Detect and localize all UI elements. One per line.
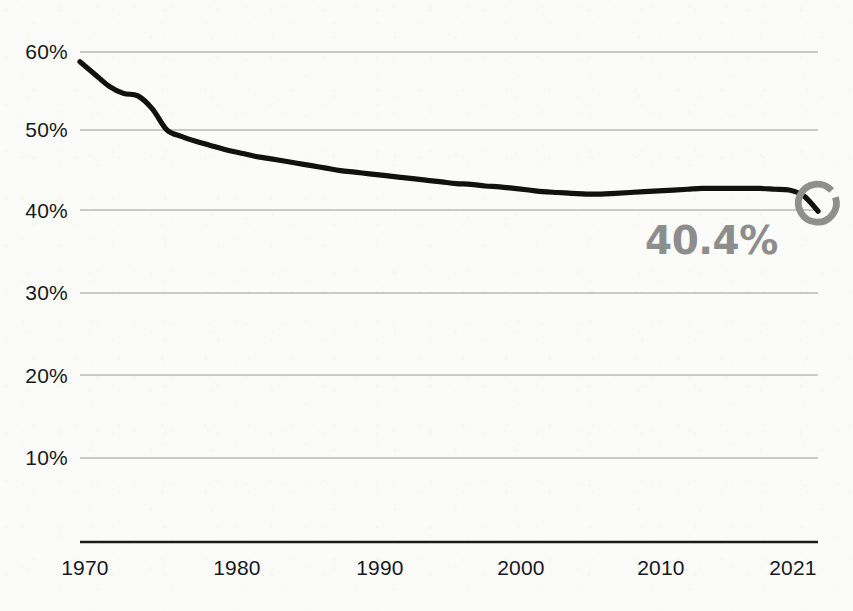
x-axis-label-1990: 1990 xyxy=(356,556,404,580)
chart-container: 60% 50% 40% 30% 20% 10% 40.4% 1970 1980 … xyxy=(0,0,853,611)
y-axis-label-30: 30% xyxy=(0,281,68,305)
x-axis-label-1970: 1970 xyxy=(61,556,109,580)
x-axis-label-2021: 2021 xyxy=(769,556,817,580)
plot-area xyxy=(0,0,853,611)
end-value-callout: 40.4% xyxy=(645,218,778,263)
y-axis-label-40: 40% xyxy=(0,199,68,223)
data-line-share xyxy=(80,62,818,211)
y-axis-label-10: 10% xyxy=(0,446,68,470)
x-axis-label-2010: 2010 xyxy=(637,556,685,580)
y-axis-label-50: 50% xyxy=(0,118,68,142)
x-axis-label-1980: 1980 xyxy=(213,556,261,580)
y-axis-label-60: 60% xyxy=(0,40,68,64)
end-marker-ring xyxy=(798,184,836,222)
y-axis-label-20: 20% xyxy=(0,364,68,388)
ring-icon xyxy=(798,184,836,222)
x-axis-label-2000: 2000 xyxy=(497,556,545,580)
